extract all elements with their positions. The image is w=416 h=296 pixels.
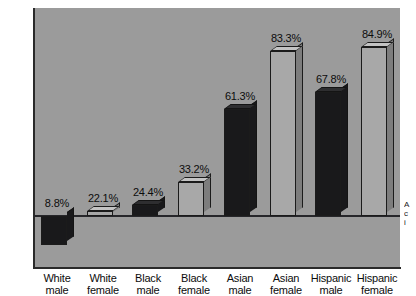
bar-side-face <box>341 83 348 212</box>
bar-face <box>178 182 204 216</box>
y-axis-line <box>33 8 35 269</box>
x-axis-label-line-2: female <box>348 284 406 296</box>
x-axis-line <box>33 267 401 269</box>
bar-hispanic-female <box>361 47 387 216</box>
bar-face <box>315 92 341 216</box>
bar-asian-female <box>270 51 296 216</box>
x-axis-label-hispanic-female: Hispanicfemale <box>348 272 406 296</box>
bar-face <box>361 47 387 216</box>
bar-asian-male <box>224 109 250 216</box>
bar-side-face <box>250 100 257 212</box>
clipped-margin-note-line-3: i <box>404 218 416 227</box>
bar-black-male <box>132 205 158 216</box>
bar-side-face <box>387 39 394 212</box>
bar-face <box>87 211 113 216</box>
bar-value-label: 24.4% <box>121 186 175 198</box>
bar-face <box>41 216 67 245</box>
bar-face <box>224 109 250 216</box>
bar-side-face <box>296 43 303 212</box>
bar-chart: 0%20%40%60%80%100% 8.8%22.1%24.4%33.2%61… <box>0 0 416 296</box>
bar-face <box>270 51 296 216</box>
bar-white-male <box>41 216 67 245</box>
bar-value-label: 84.9% <box>350 28 404 40</box>
bar-value-label: 61.3% <box>213 90 267 102</box>
bar-black-female <box>178 182 204 216</box>
bar-hispanic-male <box>315 92 341 216</box>
x-axis-label-line-1: Hispanic <box>348 272 406 284</box>
bar-value-label: 33.2% <box>167 163 221 175</box>
bar-white-female <box>87 211 113 216</box>
clipped-margin-note-line-1: A <box>404 200 416 209</box>
bar-side-face <box>67 207 74 241</box>
bar-value-label: 67.8% <box>304 73 358 85</box>
clipped-margin-note: A c i <box>404 200 416 227</box>
clipped-margin-note-line-2: c <box>404 209 416 218</box>
bar-value-label: 83.3% <box>259 32 313 44</box>
bar-face <box>132 205 158 216</box>
